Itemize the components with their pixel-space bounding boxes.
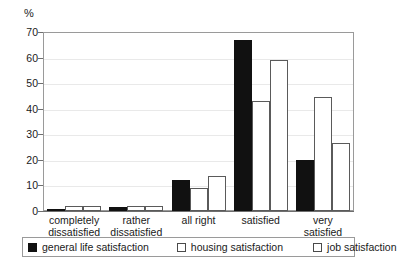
x-axis-tick-label: satisfied [230,214,292,238]
y-axis-tick-label: 30 [0,129,38,139]
y-axis-tick-label: 0 [0,206,38,216]
x-axis-tick-label: verysatisfied [292,214,354,238]
x-axis-tick-label: completelydissatisfied [43,214,105,238]
bar-group [43,32,105,211]
bar-groups [43,32,354,211]
legend-item-housing-satisfaction: housing satisfaction [177,242,283,253]
legend-item-general-life-satisfaction: general life satisfaction [28,242,149,253]
legend-label: general life satisfaction [42,242,149,253]
bar[interactable] [314,97,332,211]
bar[interactable] [270,60,288,211]
legend-swatch-icon [28,243,37,252]
bar-group [292,32,354,211]
y-axis-tick-label: 20 [0,155,38,165]
legend-swatch-icon [177,243,186,252]
bar[interactable] [234,40,252,211]
legend-label: job satisfaction [327,242,396,253]
y-axis-tick-label: 60 [0,53,38,63]
bar-group [167,32,229,211]
bar[interactable] [190,188,208,211]
bar[interactable] [332,143,350,211]
y-axis-unit-label: % [24,8,34,19]
x-axis-labels: completelydissatisfiedratherdissatisfied… [43,214,354,238]
bar-group [105,32,167,211]
x-axis-line [43,211,354,212]
legend-swatch-icon [313,243,322,252]
legend-item-job-satisfaction: job satisfaction [313,242,396,253]
y-axis-tick-label: 10 [0,180,38,190]
bar[interactable] [208,176,226,211]
y-axis-tick-label: 40 [0,104,38,114]
y-axis-tick-label: 70 [0,27,38,37]
bar[interactable] [296,160,314,211]
bar[interactable] [252,101,270,211]
bar[interactable] [172,180,190,211]
legend-label: housing satisfaction [191,242,283,253]
x-axis-tick-label: ratherdissatisfied [105,214,167,238]
chart-legend: general life satisfaction housing satisf… [22,237,355,257]
x-axis-tick-label: all right [167,214,229,238]
y-axis-tick-label: 50 [0,78,38,88]
bar-group [230,32,292,211]
